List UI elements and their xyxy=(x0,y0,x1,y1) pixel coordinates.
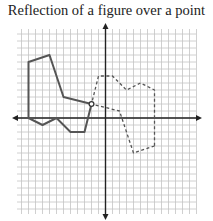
center-of-reflection-point xyxy=(89,102,94,107)
reflected-figure xyxy=(92,76,155,153)
axes xyxy=(12,23,202,220)
coordinate-plane xyxy=(0,0,213,221)
original-figure xyxy=(29,55,92,132)
